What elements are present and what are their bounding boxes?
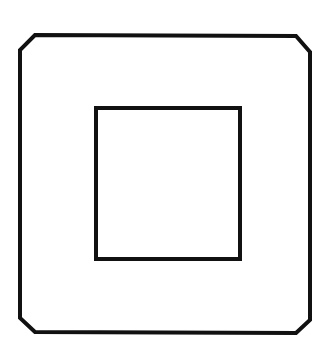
diagram-canvas — [0, 0, 333, 352]
outer-chamfered-frame — [20, 35, 310, 333]
inner-square — [96, 108, 240, 259]
